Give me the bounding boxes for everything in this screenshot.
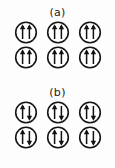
spin-pair-circle <box>46 46 70 69</box>
panel-a-grid <box>0 20 115 70</box>
spin-pair-circle <box>14 21 38 44</box>
panel-a: (a) <box>0 2 115 82</box>
spin-pair-figure: (a) <box>0 0 115 168</box>
spin-pair-circle <box>14 46 38 69</box>
panel-a-row-1 <box>0 20 115 45</box>
spin-pair-circle <box>78 46 102 69</box>
panel-b: (b) <box>0 82 115 168</box>
panel-b-label: (b) <box>0 82 115 100</box>
spin-pair-circle <box>14 101 38 124</box>
spin-pair-circle <box>78 126 102 149</box>
spin-pair-circle <box>46 21 70 44</box>
panel-a-label: (a) <box>0 2 115 20</box>
spin-pair-circle <box>78 21 102 44</box>
panel-b-row-2 <box>0 125 115 150</box>
panel-b-grid <box>0 100 115 150</box>
spin-pair-circle <box>46 126 70 149</box>
spin-pair-circle <box>78 101 102 124</box>
panel-b-row-1 <box>0 100 115 125</box>
spin-pair-circle <box>14 126 38 149</box>
panel-a-row-2 <box>0 45 115 70</box>
spin-pair-circle <box>46 101 70 124</box>
